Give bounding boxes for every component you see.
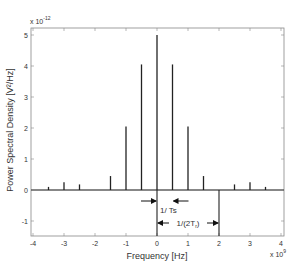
y-tick-label: 1 [24, 156, 28, 163]
x-tick-label: -1 [123, 240, 129, 247]
x-tick-label: 3 [248, 240, 252, 247]
spectral-lines [49, 35, 266, 190]
x-tick-label: -3 [61, 240, 67, 247]
x-tick-label: -2 [92, 240, 98, 247]
y-axis-label: Power Spectral Density [V²/Hz] [5, 68, 15, 192]
x-axis-label: Frequency [Hz] [126, 251, 187, 261]
x-tick-label: -4 [30, 240, 36, 247]
y-tick-label: 4 [24, 63, 28, 70]
x-tick-label: 0 [155, 240, 159, 247]
y-tick-label: 3 [24, 94, 28, 101]
psd-stem-chart: -4-3-2-101234-1012345 1/ Ts1/(2Tr) Frequ… [0, 0, 302, 267]
axis-ticks: -4-3-2-101234-1012345 [22, 28, 284, 247]
y-tick-label: -1 [22, 218, 28, 225]
x-multiplier: x 109 [270, 248, 286, 258]
y-tick-label: 0 [24, 187, 28, 194]
tr-label: 1/(2Tr) [176, 219, 199, 229]
ts-label: 1/ Ts [160, 206, 177, 215]
x-tick-label: 1 [186, 240, 190, 247]
x-tick-label: 2 [217, 240, 221, 247]
y-multiplier: x 10-12 [30, 15, 51, 25]
x-tick-label: 4 [279, 240, 283, 247]
y-tick-label: 2 [24, 125, 28, 132]
y-tick-label: 5 [24, 32, 28, 39]
annotations: 1/ Ts1/(2Tr) [141, 201, 218, 229]
